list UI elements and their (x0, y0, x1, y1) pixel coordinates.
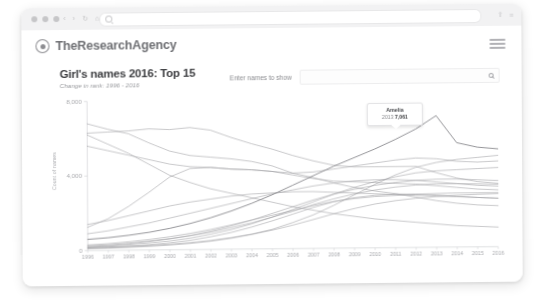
search-input[interactable] (301, 69, 499, 84)
svg-text:2007: 2007 (308, 252, 320, 258)
minimize-window-icon[interactable] (42, 16, 48, 22)
svg-text:2005: 2005 (267, 253, 279, 259)
hamburger-menu-icon[interactable] (489, 39, 505, 49)
browser-mockup: ‹ › ↻ ⌂ ⇪ ≡ TheResearchAge (21, 4, 522, 287)
maximize-window-icon[interactable] (53, 16, 59, 22)
address-bar[interactable] (99, 9, 481, 27)
page-content: TheResearchAgency Girl's names 2016: Top… (21, 26, 522, 287)
svg-text:1999: 1999 (144, 254, 156, 260)
address-search-icon (105, 16, 112, 23)
hamburger-line (489, 39, 505, 41)
svg-text:2015: 2015 (472, 251, 484, 257)
svg-text:4,000: 4,000 (67, 173, 83, 179)
svg-text:2001: 2001 (185, 253, 197, 259)
svg-text:2016: 2016 (492, 250, 504, 256)
svg-text:2002: 2002 (205, 253, 217, 259)
browser-window: ‹ › ↻ ⌂ ⇪ ≡ TheResearchAge (21, 4, 522, 287)
tooltip-year: 2013 (382, 114, 394, 120)
browser-menu-icon[interactable]: ≡ (509, 11, 513, 18)
svg-text:2004: 2004 (246, 253, 258, 259)
chart-tooltip: Amelia 2013 7,061 (367, 103, 423, 127)
browser-nav-icons[interactable]: ‹ › ↻ ⌂ (63, 15, 99, 23)
screenshot-stage: ‹ › ↻ ⌂ ⇪ ≡ TheResearchAge (0, 0, 548, 305)
hamburger-line (489, 47, 505, 49)
hamburger-line (489, 43, 505, 45)
reload-icon[interactable]: ↻ (82, 15, 88, 23)
svg-text:1998: 1998 (123, 254, 135, 260)
window-controls[interactable] (31, 16, 59, 22)
forward-icon[interactable]: › (73, 15, 75, 23)
svg-text:2012: 2012 (410, 251, 422, 257)
svg-text:2010: 2010 (369, 252, 381, 258)
svg-text:1996: 1996 (82, 254, 94, 260)
svg-text:2008: 2008 (328, 252, 340, 258)
svg-text:2014: 2014 (451, 251, 463, 257)
back-icon[interactable]: ‹ (63, 15, 65, 23)
tooltip-value: 7,061 (395, 114, 408, 120)
svg-text:0: 0 (79, 248, 83, 254)
chart-canvas: 04,0008,00019961997199819992000200120022… (56, 92, 505, 268)
svg-text:2006: 2006 (287, 252, 299, 258)
search-area: Enter names to show (230, 68, 500, 86)
svg-text:2003: 2003 (226, 253, 238, 259)
browser-toolbar-right[interactable]: ⇪ ≡ (497, 11, 513, 19)
site-header: TheResearchAgency (21, 26, 521, 65)
svg-text:2013: 2013 (431, 251, 443, 257)
search-label: Enter names to show (230, 74, 292, 82)
search-icon[interactable] (489, 72, 494, 77)
share-icon[interactable]: ⇪ (497, 11, 503, 19)
svg-text:8,000: 8,000 (66, 99, 82, 105)
svg-text:2011: 2011 (390, 251, 402, 257)
svg-text:2000: 2000 (164, 254, 176, 260)
brand-name: TheResearchAgency (55, 38, 176, 53)
y-axis-label: Count of names (51, 152, 57, 190)
brand[interactable]: TheResearchAgency (35, 38, 176, 53)
search-box[interactable] (300, 68, 500, 85)
line-chart: Count of names 04,0008,00019961997199819… (56, 92, 505, 268)
tooltip-value-row: 2013 7,061 (372, 114, 418, 121)
svg-text:1997: 1997 (102, 254, 114, 260)
logo-icon (35, 39, 49, 53)
close-window-icon[interactable] (31, 16, 37, 22)
svg-text:2009: 2009 (349, 252, 361, 258)
